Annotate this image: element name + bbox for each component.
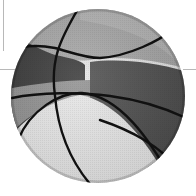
basketball-icon	[0, 0, 196, 196]
